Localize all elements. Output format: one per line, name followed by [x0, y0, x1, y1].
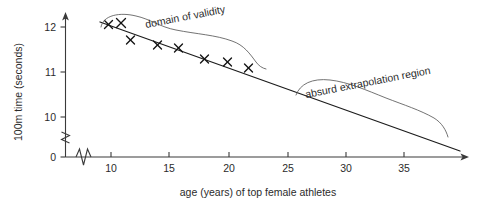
y-tick-label-12: 12 [44, 21, 56, 33]
data-point-marker [224, 58, 232, 66]
data-point-marker [245, 64, 253, 72]
x-axis-title: age (years) of top female athletes [180, 186, 336, 198]
y-tick-labels: 12 11 10 0 [44, 21, 56, 163]
y-axis-title: 100m time (seconds) [12, 43, 24, 141]
domain-of-validity-label: domain of validity [144, 3, 227, 30]
x-tick-label-25: 25 [282, 162, 294, 174]
data-point-marker [127, 36, 135, 44]
x-tick-label-30: 30 [340, 162, 352, 174]
y-tick-label-10: 10 [44, 111, 56, 123]
chart-figure: 12 11 10 0 10 15 20 25 30 35 age [0, 0, 481, 213]
x-tick-label-35: 35 [398, 162, 410, 174]
y-axis [61, 12, 70, 157]
scatter-plot-svg: 12 11 10 0 10 15 20 25 30 35 age [0, 0, 481, 213]
data-markers [105, 19, 253, 73]
y-tick-label-11: 11 [45, 66, 56, 78]
y-axis-break-symbol [62, 132, 70, 143]
data-point-marker [117, 19, 126, 28]
x-tick-label-15: 15 [163, 162, 175, 174]
absurd-extrapolation-label: absurd extrapolation region [304, 64, 431, 100]
x-tick-label-10: 10 [105, 162, 117, 174]
domain-of-validity-annotation: domain of validity [101, 3, 266, 69]
x-tick-label-20: 20 [223, 162, 235, 174]
x-tick-labels: 10 15 20 25 30 35 [105, 162, 410, 174]
y-tick-label-0: 0 [50, 151, 56, 163]
data-point-marker [175, 44, 183, 52]
